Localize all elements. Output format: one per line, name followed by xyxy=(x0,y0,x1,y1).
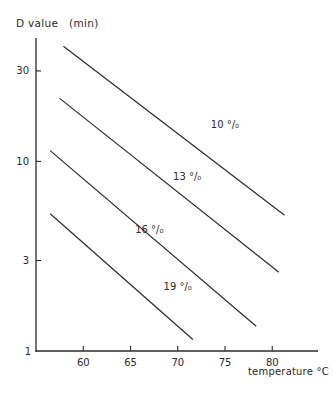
series-label: 19 °/₀ xyxy=(164,281,192,292)
series-labels: 10 °/₀13 °/₀16 °/₀19 °/₀ xyxy=(135,119,239,292)
series-label: 10 °/₀ xyxy=(211,119,239,130)
x-axis-title: temperature °C xyxy=(248,366,329,377)
series-label: 16 °/₀ xyxy=(135,224,163,235)
y-tick-label: 3 xyxy=(23,255,29,266)
series-line xyxy=(50,214,193,340)
y-axis-title: D value (min) xyxy=(16,17,99,29)
x-ticks: 6065707580 xyxy=(77,346,279,368)
y-tick-label: 10 xyxy=(16,156,29,167)
x-tick-label: 75 xyxy=(219,357,232,368)
x-tick-label: 60 xyxy=(77,357,90,368)
x-tick-label: 65 xyxy=(124,357,137,368)
x-tick-label: 70 xyxy=(171,357,184,368)
y-tick-label: 30 xyxy=(16,65,29,76)
series-line xyxy=(50,151,256,327)
d-value-chart: 131030 6065707580 10 °/₀13 °/₀16 °/₀19 °… xyxy=(0,0,334,396)
y-tick-label: 1 xyxy=(25,346,31,357)
series-label: 13 °/₀ xyxy=(173,171,201,182)
y-ticks: 131030 xyxy=(16,65,41,356)
series-lines xyxy=(50,46,284,339)
